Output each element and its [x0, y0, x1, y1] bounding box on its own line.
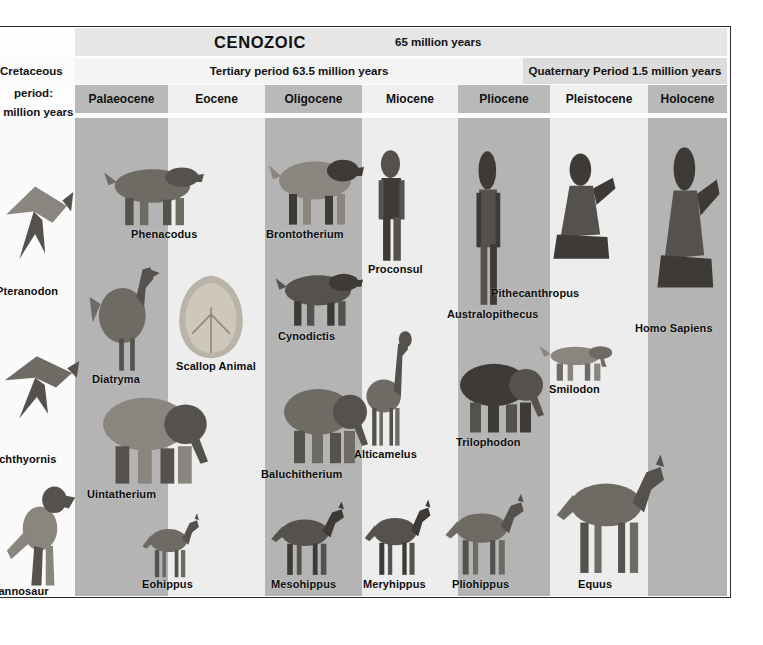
animal-label-mesohippus: Mesohippus	[271, 578, 336, 590]
animal-label-ichthyornis: Ichthyornis	[0, 453, 56, 465]
animal-label-alticamelus: Alticamelus	[354, 448, 417, 460]
epoch-band-pleistocene	[550, 118, 648, 596]
epoch-column-bands	[75, 118, 727, 596]
animal-label-homo-sapiens: Homo Sapiens	[635, 322, 713, 334]
cenozoic-chart: CENOZOIC 65 million years Cretaceous Ter…	[0, 0, 763, 645]
animal-label-brontotherium: Brontotherium	[266, 228, 344, 240]
epoch-header-pliocene[interactable]: Pliocene	[458, 85, 550, 113]
period-tertiary: Tertiary period 63.5 million years	[75, 58, 523, 84]
epoch-header-miocene[interactable]: Miocene	[362, 85, 458, 113]
animal-label-cynodictis: Cynodictis	[278, 330, 335, 342]
cretaceous-duration-label: 1 million years	[0, 106, 75, 118]
epoch-header-eocene[interactable]: Eocene	[168, 85, 265, 113]
era-duration: 65 million years	[395, 36, 481, 48]
epoch-header-holocene[interactable]: Holocene	[648, 85, 727, 113]
period-row: Cretaceous Tertiary period 63.5 million …	[0, 58, 763, 84]
period-cretaceous: Cretaceous	[0, 58, 75, 84]
epoch-band-miocene	[362, 118, 458, 596]
epoch-header-oligocene[interactable]: Oligocene	[265, 85, 362, 113]
animal-label-meryhippus: Meryhippus	[363, 578, 426, 590]
epoch-header-palaeocene[interactable]: Palaeocene	[75, 85, 168, 113]
animal-label-smilodon: Smilodon	[549, 383, 600, 395]
period-quaternary: Quaternary Period 1.5 million years	[523, 58, 727, 84]
epoch-band-palaeocene	[75, 118, 168, 596]
cretaceous-body-strip	[0, 118, 75, 596]
animal-label-rannosaur: rannosaur	[0, 585, 49, 597]
animal-label-diatryma: Diatryma	[92, 373, 140, 385]
animal-label-pteranodon: Pteranodon	[0, 285, 58, 297]
animal-label-eohippus: Eohippus	[142, 578, 193, 590]
epoch-band-eocene	[168, 118, 265, 596]
animal-label-australopithecus: Australopithecus	[447, 308, 538, 320]
animal-label-equus: Equus	[578, 578, 612, 590]
animal-label-trilophodon: Trilophodon	[456, 436, 521, 448]
epoch-header-pleistocene[interactable]: Pleistocene	[550, 85, 648, 113]
animal-label-phenacodus: Phenacodus	[131, 228, 197, 240]
cretaceous-period-label: period:	[0, 87, 75, 99]
epoch-band-pliocene	[458, 118, 550, 596]
epoch-header-row: PalaeoceneEoceneOligoceneMiocenePliocene…	[75, 85, 727, 113]
animal-label-scallop-animal: Scallop Animal	[176, 360, 256, 372]
animal-label-pliohippus: Pliohippus	[452, 578, 509, 590]
animal-label-baluchitherium: Baluchitherium	[261, 468, 342, 480]
animal-label-proconsul: Proconsul	[368, 263, 423, 275]
epoch-band-oligocene	[265, 118, 362, 596]
era-title: CENOZOIC	[160, 33, 360, 52]
animal-label-uintatherium: Uintatherium	[87, 488, 156, 500]
animal-label-pithecanthropus: Pithecanthropus	[491, 287, 579, 299]
epoch-band-holocene	[648, 118, 727, 596]
